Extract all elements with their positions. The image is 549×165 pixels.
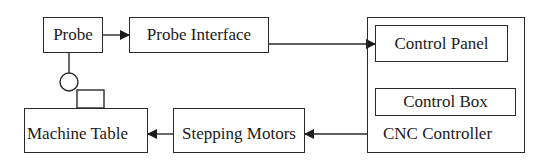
workpiece-block-icon xyxy=(77,90,104,108)
probe-label: Probe xyxy=(53,25,93,45)
probe-interface-label: Probe Interface xyxy=(147,25,251,45)
control-panel-label: Control Panel xyxy=(395,34,489,54)
probe-tip-icon xyxy=(60,73,78,91)
stepping-motors-label: Stepping Motors xyxy=(182,124,296,144)
machine-table-label: Machine Table xyxy=(27,124,128,144)
probe-interface-box: Probe Interface xyxy=(129,17,269,53)
control-box-label: Control Box xyxy=(403,92,488,112)
control-box-box: Control Box xyxy=(375,88,516,116)
cnc-controller-label: CNC Controller xyxy=(383,124,492,144)
cnc-probe-diagram: Probe Probe Interface Control Panel Cont… xyxy=(0,0,549,165)
probe-box: Probe xyxy=(43,17,103,53)
machine-table-box: Machine Table xyxy=(24,108,148,153)
stepping-motors-box: Stepping Motors xyxy=(173,108,305,153)
control-panel-box: Control Panel xyxy=(375,25,508,62)
